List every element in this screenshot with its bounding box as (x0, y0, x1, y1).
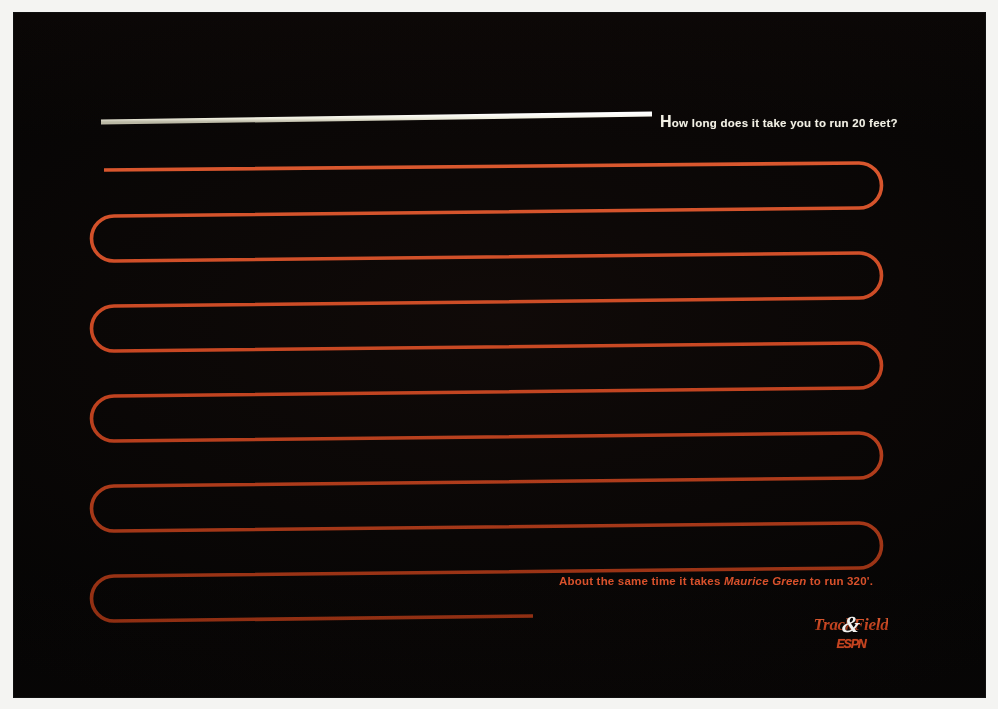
kicker-text: About the same time it takes Maurice Gre… (559, 576, 873, 588)
short-white-line (101, 114, 652, 122)
athlete-name: Maurice Green (724, 575, 807, 587)
magazine-page: How long does it take you to run 20 feet… (14, 13, 985, 697)
headline-text: How long does it take you to run 20 feet… (660, 114, 898, 130)
track-and-field-logo[interactable]: TrackField & ESPN (796, 614, 906, 651)
logo-wordmark: TrackField & (796, 614, 906, 636)
espn-wordmark: ESPN (796, 638, 906, 651)
ad-scan-canvas: How long does it take you to run 20 feet… (0, 0, 998, 709)
ampersand-icon: & (840, 613, 862, 636)
kicker-after-name: to run 320'. (806, 575, 873, 587)
kicker-before-name: About the same time it takes (559, 575, 724, 587)
long-red-serpentine (92, 163, 882, 621)
headline-rest: ow long does it take you to run 20 feet? (672, 117, 898, 129)
headline-lead-cap: H (660, 113, 672, 130)
